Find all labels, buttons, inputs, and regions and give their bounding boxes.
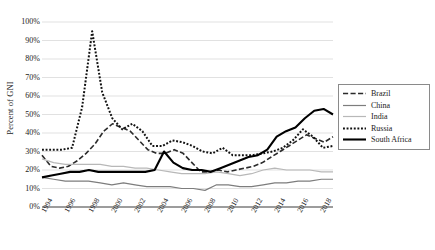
legend-swatch-icon <box>342 111 367 122</box>
legend-label: India <box>367 112 387 121</box>
legend-label: Russia <box>367 124 392 133</box>
chart-legend: BrazilChinaIndiaRussiaSouth Africa <box>338 84 430 150</box>
legend-swatch-icon <box>342 123 367 134</box>
series-line-india <box>42 159 333 176</box>
series-lines <box>42 31 333 190</box>
y-tick-label: 20% <box>25 166 40 174</box>
chart-container: Percent of GNI 0%10%20%30%40%50%60%70%80… <box>0 0 435 250</box>
legend-item-china[interactable]: China <box>342 100 426 112</box>
legend-item-south-africa[interactable]: South Africa <box>342 134 426 146</box>
y-axis-ticks: 0%10%20%30%40%50%60%70%80%90%100% <box>14 0 40 215</box>
x-axis-ticks: 1994199619982000200220042006200820102012… <box>0 208 435 250</box>
legend-swatch-icon <box>342 88 367 99</box>
y-tick-label: 100% <box>21 18 40 26</box>
legend-item-brazil[interactable]: Brazil <box>342 88 426 100</box>
legend-item-india[interactable]: India <box>342 111 426 123</box>
y-tick-label: 80% <box>25 55 40 63</box>
legend-swatch-icon <box>342 100 367 111</box>
y-tick-label: 10% <box>25 185 40 193</box>
y-tick-label: 40% <box>25 129 40 137</box>
y-tick-label: 30% <box>25 148 40 156</box>
y-tick-label: 60% <box>25 92 40 100</box>
series-line-russia <box>42 31 333 155</box>
legend-label: China <box>367 101 390 110</box>
legend-item-russia[interactable]: Russia <box>342 123 426 135</box>
y-tick-label: 90% <box>25 37 40 45</box>
y-tick-label: 50% <box>25 111 40 119</box>
legend-label: South Africa <box>367 135 412 144</box>
y-tick-label: 70% <box>25 74 40 82</box>
legend-label: Brazil <box>367 89 391 98</box>
legend-swatch-icon <box>342 134 367 145</box>
gridlines <box>42 22 333 189</box>
